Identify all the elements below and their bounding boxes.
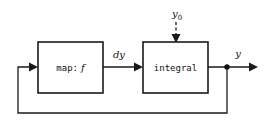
feedback-arrowhead-icon: [29, 63, 38, 72]
dy-arrowhead-icon: [134, 63, 143, 72]
diagram-canvas: map:f integral dy y0 y: [0, 0, 266, 126]
signal-y0-label: y0: [171, 8, 182, 22]
signal-dy-label: dy: [113, 49, 125, 60]
block-map-label-plain: map:: [56, 63, 78, 73]
block-map-label: map:f: [56, 62, 87, 73]
block-diagram: map:f integral dy y0 y: [0, 0, 266, 126]
signal-y0-label-sub: 0: [178, 14, 182, 22]
signal-y-label: y: [234, 48, 241, 59]
block-integral-label: integral: [154, 63, 197, 73]
y-output-arrowhead-icon: [249, 63, 258, 72]
